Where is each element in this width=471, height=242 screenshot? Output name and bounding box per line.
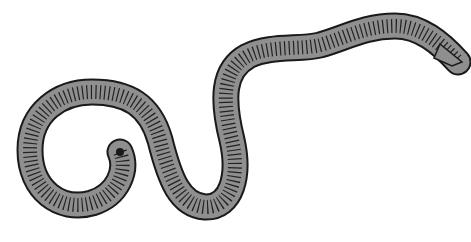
- worm-tail-tip: [116, 148, 124, 156]
- earthworm-illustration: [0, 0, 471, 242]
